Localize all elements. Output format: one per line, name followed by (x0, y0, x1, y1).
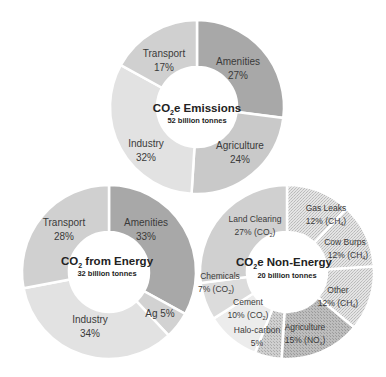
value-transport: 17% (154, 62, 174, 73)
chart-title: CO2 from Energy (61, 255, 154, 269)
label-industry: Industry (72, 314, 108, 325)
label-industry: Industry (128, 138, 164, 149)
value-gas-leaks: 12% (CH4) (306, 216, 347, 227)
chart-title: CO2e Emissions (153, 102, 241, 116)
label-ag: Ag 5% (145, 308, 175, 319)
value-industry: 34% (80, 328, 100, 339)
value-cement: 10% (CO2) (228, 310, 269, 321)
value-transport: 28% (54, 231, 74, 242)
label-transport: Transport (143, 48, 186, 59)
label-other: Other (327, 285, 348, 295)
chart-subtitle: 20 billion tonnes (257, 271, 316, 280)
label-land-clearing: Land Clearing (229, 214, 282, 224)
label-amenities: Amenities (216, 56, 260, 67)
value-halo-carbon: 5% (251, 338, 264, 348)
value-cow-burps: 12% (CH4) (328, 250, 369, 261)
value-amenities: 33% (136, 231, 156, 242)
emissions-donut-charts: Transport 17% Amenities 27% Industry 32%… (0, 0, 386, 377)
label-gas-leaks: Gas Leaks (306, 203, 347, 213)
value-agriculture: 24% (230, 154, 250, 165)
slice-industry (110, 65, 194, 194)
label-amenities: Amenities (124, 217, 168, 228)
label-cow-burps: Cow Burps (324, 237, 366, 247)
value-other: 12% (CH4) (318, 298, 359, 309)
chart-title: CO2e Non-Energy (236, 256, 333, 270)
label-transport: Transport (43, 217, 86, 228)
label-agriculture: Agriculture (285, 322, 326, 332)
value-industry: 32% (136, 152, 156, 163)
chart-subtitle: 32 billion tonnes (77, 269, 136, 278)
chart-subtitle: 52 billion tonnes (167, 116, 226, 125)
label-cement: Cement (233, 297, 263, 307)
value-amenities: 27% (228, 70, 248, 81)
label-halo-carbon: Halo-carbon (234, 325, 281, 335)
value-land-clearing: 27% (CO2) (235, 227, 276, 238)
label-agriculture: Agriculture (216, 140, 264, 151)
label-chemicals: Chemicals (200, 271, 240, 281)
value-agriculture: 15% (NOx) (285, 335, 326, 346)
